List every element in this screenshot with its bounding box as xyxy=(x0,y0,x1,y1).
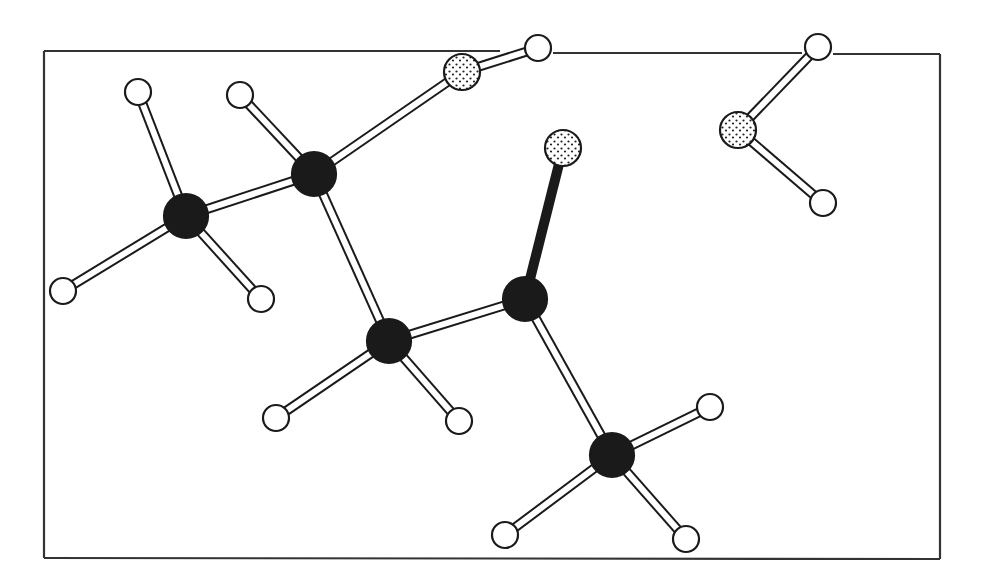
hydrogen-atom-icon xyxy=(227,82,253,108)
hydrogen-atom-icon xyxy=(492,522,518,548)
carbon-atom-icon xyxy=(503,277,547,321)
double-bond xyxy=(525,148,563,299)
hydrogen-atom-icon xyxy=(525,35,551,61)
oxygen-atom-icon xyxy=(720,112,756,148)
molecule-diagram xyxy=(0,0,981,584)
carbon-atom-icon xyxy=(367,319,411,363)
single-bond xyxy=(314,174,389,341)
single-bond xyxy=(525,299,612,455)
hydrogen-atom-icon xyxy=(805,34,831,60)
hydrogen-atom-icon xyxy=(673,526,699,552)
carbon-atom-icon xyxy=(164,194,208,238)
bonds-layer xyxy=(63,47,823,539)
oxygen-atom-icon xyxy=(545,130,581,166)
oxygen-atom-icon xyxy=(444,54,480,90)
frame-line xyxy=(44,558,940,559)
carbon-atom-icon xyxy=(292,152,336,196)
hydrogen-atom-icon xyxy=(810,190,836,216)
hydrogen-atom-icon xyxy=(697,394,723,420)
single-bond xyxy=(314,72,462,174)
hydrogen-atom-icon xyxy=(125,79,151,105)
carbon-atom-icon xyxy=(590,433,634,477)
atoms-layer xyxy=(50,34,836,552)
hydrogen-atom-icon xyxy=(248,286,274,312)
hydrogen-atom-icon xyxy=(446,408,472,434)
hydrogen-atom-icon xyxy=(263,405,289,431)
hydrogen-atom-icon xyxy=(50,278,76,304)
